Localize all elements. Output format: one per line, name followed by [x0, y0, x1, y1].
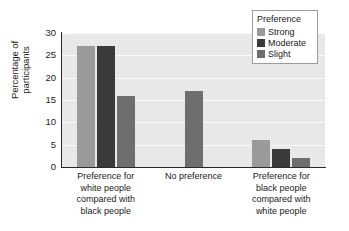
legend-entry: Slight: [257, 48, 313, 59]
y-tick-label: 15: [30, 95, 56, 105]
legend-swatch-icon: [257, 50, 265, 58]
legend-entry: Moderate: [257, 37, 313, 48]
x-category-label: No preference: [150, 171, 238, 183]
legend-swatch-icon: [257, 28, 265, 36]
y-axis-tick-labels: 051015202530: [30, 28, 56, 172]
x-category-label: Preference for white people compared wit…: [62, 171, 150, 217]
legend-title: Preference: [257, 14, 313, 25]
y-tick-label: 25: [30, 50, 56, 60]
bar: [272, 149, 290, 167]
bar: [117, 96, 135, 167]
y-tick-label: 10: [30, 117, 56, 127]
x-axis-line: [61, 167, 326, 168]
y-tick-label: 5: [30, 140, 56, 150]
legend: Preference StrongModerateSlight: [252, 10, 318, 64]
legend-entries: StrongModerateSlight: [257, 26, 313, 59]
y-tick-label: 0: [30, 162, 56, 172]
x-category-label: Preference for black people compared wit…: [237, 171, 325, 217]
legend-entry: Strong: [257, 26, 313, 37]
legend-swatch-icon: [257, 39, 265, 47]
bar: [185, 91, 203, 167]
y-tick-label: 20: [30, 73, 56, 83]
bar-chart: Percentage of participants 051015202530 …: [0, 0, 349, 231]
bar: [97, 46, 115, 167]
bar: [77, 46, 95, 167]
legend-label: Moderate: [268, 38, 306, 48]
bar: [252, 140, 270, 167]
y-tick-label: 30: [30, 28, 56, 38]
legend-label: Slight: [268, 49, 291, 59]
bar: [292, 158, 310, 167]
x-axis-category-labels: Preference for white people compared wit…: [62, 171, 325, 229]
legend-label: Strong: [268, 27, 295, 37]
